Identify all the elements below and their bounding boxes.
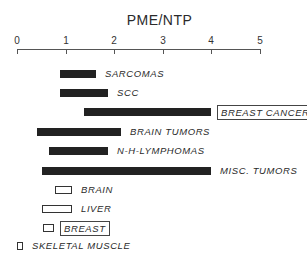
range-bar xyxy=(43,224,54,232)
x-tick-mark xyxy=(114,49,115,54)
x-tick-mark xyxy=(66,49,67,54)
category-label: BREAST xyxy=(60,221,110,236)
x-tick-mark xyxy=(17,49,18,54)
x-tick-label: 3 xyxy=(157,35,169,46)
range-bar xyxy=(84,108,211,116)
x-tick-label: 2 xyxy=(108,35,120,46)
x-tick-label: 1 xyxy=(60,35,72,46)
category-label: MISC. TUMORS xyxy=(220,165,297,176)
range-bar xyxy=(60,89,108,97)
range-bar xyxy=(55,186,72,194)
category-label: SARCOMAS xyxy=(105,68,164,79)
category-label: BREAST CANCER xyxy=(217,105,307,120)
x-tick-label: 5 xyxy=(254,35,266,46)
x-tick-mark xyxy=(260,49,261,54)
x-tick-mark xyxy=(211,49,212,54)
range-bar xyxy=(49,147,108,155)
category-label: LIVER xyxy=(81,203,111,214)
range-bar xyxy=(60,70,96,78)
x-tick-label: 4 xyxy=(205,35,217,46)
category-label: BRAIN xyxy=(81,184,113,195)
x-tick-label: 0 xyxy=(11,35,23,46)
chart-title: PME/NTP xyxy=(0,12,307,28)
range-bar xyxy=(42,205,72,213)
category-label: SKELETAL MUSCLE xyxy=(32,240,130,251)
range-bar xyxy=(17,242,23,250)
category-label: SCC xyxy=(117,87,139,98)
range-bar xyxy=(37,128,121,136)
range-bar xyxy=(42,167,211,175)
x-tick-mark xyxy=(163,49,164,54)
category-label: BRAIN TUMORS xyxy=(130,126,210,137)
category-label: N-H-LYMPHOMAS xyxy=(117,145,205,156)
x-axis-line xyxy=(17,49,260,50)
